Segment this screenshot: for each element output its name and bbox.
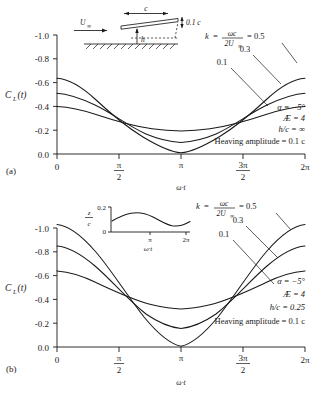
y-tick-label: -1.0 (35, 31, 50, 41)
annotation-alpha: α = −5° (277, 102, 305, 112)
y-tick-label: -0.8 (35, 54, 50, 64)
y-axis-label-a: C L (t) (5, 90, 26, 102)
chord-label: c (144, 4, 148, 13)
k-formula-a: k = ωc 2U ∞ = 0.5 (205, 29, 265, 50)
curves-b (57, 225, 305, 347)
inset-ytick-bottom: 0 (103, 228, 107, 236)
k-label-0.3: 0.3 (240, 44, 251, 54)
x-tick-label-0: 0 (55, 355, 60, 365)
y-axis-label-text: C (5, 283, 12, 293)
k-formula-value: = 0.5 (247, 31, 265, 41)
y-tick-labels-a: -1.0 -0.8 -0.6 -0.4 -0.2 0.0 (35, 31, 50, 160)
y-axis-label-arg: (t) (18, 90, 27, 101)
x-tick-label-pi-half-num: π (117, 353, 122, 363)
inset-curve-zc (112, 213, 190, 226)
annotation-h-over-c: h/c = ∞ (279, 124, 305, 134)
annotation-alpha: α = −5° (277, 276, 305, 286)
curve-k-0.5 (57, 225, 305, 347)
k-formula-lhs: k (205, 31, 209, 41)
k-label-0.3: 0.3 (233, 215, 244, 225)
inset-xtick-2pi: 2π (182, 236, 190, 244)
x-axis-label-b: ω·t (176, 378, 186, 387)
panel-a: -1.0 -0.8 -0.6 -0.4 -0.2 0.0 C L (t) 0 π… (0, 0, 325, 200)
k-formula-numerator: ωc (220, 199, 229, 208)
annotation-aspect-ratio: Æ = 4 (282, 113, 306, 123)
y-tick-label: 0.0 (38, 343, 50, 353)
h-label: h (141, 35, 145, 44)
k-formula-lhs: k (196, 201, 200, 211)
y-axis-label-arg: (t) (18, 283, 27, 294)
k-formula-b: k = ωc 2U ∞ = 0.5 (196, 199, 257, 220)
y-axis-label-sub: L (12, 288, 17, 295)
ground-hatching (86, 44, 175, 49)
y-axis-label-b: C L (t) (5, 283, 26, 295)
annotations-b: α = −5° Æ = 4 h/c = 0.25 Heaving amplitu… (215, 276, 306, 326)
inset-airfoil-diagram-a: U ∞ c 0.1 c h (74, 4, 201, 49)
y-tick-label: -1.0 (35, 224, 50, 234)
k-formula-value: = 0.5 (239, 201, 257, 211)
panel-a-plot: -1.0 -0.8 -0.6 -0.4 -0.2 0.0 C L (t) 0 π… (0, 0, 325, 200)
panel-b-plot: -1.0 -0.8 -0.6 -0.4 -0.2 0.0 C L (t) 0 π… (0, 196, 325, 397)
figure-container: -1.0 -0.8 -0.6 -0.4 -0.2 0.0 C L (t) 0 π… (0, 0, 325, 397)
y-tick-labels-b: -1.0 -0.8 -0.6 -0.4 -0.2 0.0 (35, 224, 50, 353)
y-tick-label: -0.4 (35, 102, 50, 112)
annotation-heaving-amplitude: Heaving amplitude = 0.1 c (215, 136, 306, 146)
x-tick-label-pi-half-num: π (117, 160, 122, 170)
x-tick-labels-b: 0 π 2 π 3π 2 2π (55, 353, 310, 375)
y-tick-label: -0.2 (35, 126, 49, 136)
amplitude-label: 0.1 c (186, 18, 201, 27)
x-axis-label-a: ω·t (176, 183, 186, 192)
inset-xlabel: ω·t (144, 245, 154, 253)
x-tick-label-2pi: 2π (300, 162, 310, 172)
x-tick-label-3pi-half-den: 2 (241, 365, 246, 375)
k-formula-denominator: 2U (216, 209, 226, 218)
x-tick-label-pi: π (179, 353, 184, 363)
annotation-aspect-ratio: Æ = 4 (282, 289, 306, 299)
k-label-0.1: 0.1 (217, 57, 228, 67)
panel-tag-a: (a) (6, 166, 16, 176)
x-tick-label-pi-half-den: 2 (117, 172, 122, 182)
k-formula-eq: = (213, 31, 218, 41)
inset-xtick-pi: π (148, 236, 152, 244)
y-axis-label-text: C (5, 90, 12, 100)
u-infinity-label: U (80, 18, 86, 27)
x-tick-label-0: 0 (55, 162, 60, 172)
curve-k-0.1 (57, 271, 305, 309)
curve-k-0.1 (57, 106, 305, 130)
y-tick-label: -0.8 (35, 247, 50, 257)
inset-ylabel-den: c (87, 220, 91, 228)
x-tick-label-pi: π (179, 160, 184, 170)
k-formula-numerator: ωc (228, 29, 237, 38)
panel-b: -1.0 -0.8 -0.6 -0.4 -0.2 0.0 C L (t) 0 π… (0, 196, 325, 397)
y-tick-label: 0.0 (38, 150, 50, 160)
y-tick-label: -0.6 (35, 271, 50, 281)
k-formula-eq: = (204, 201, 209, 211)
x-tick-label-3pi-half-den: 2 (241, 172, 246, 182)
annotation-heaving-amplitude: Heaving amplitude = 0.1 c (215, 316, 306, 326)
x-tick-label-2pi: 2π (300, 355, 310, 365)
annotation-h-over-c: h/c = 0.25 (270, 302, 305, 312)
y-tick-label: -0.2 (35, 319, 49, 329)
y-tick-label: -0.4 (35, 295, 50, 305)
y-axis-label-sub: L (12, 95, 17, 102)
inset-zc-plot-b: z c 0.2 0 π 2π ω·t (85, 204, 190, 253)
k-formula-denominator: 2U (224, 39, 234, 48)
k-label-0.1: 0.1 (219, 229, 230, 239)
inset-ytick-top: 0.2 (97, 204, 106, 212)
u-infinity-sub: ∞ (87, 23, 91, 29)
panel-tag-b: (b) (6, 364, 17, 374)
u-arrow-head (102, 29, 107, 33)
y-tick-label: -0.6 (35, 78, 50, 88)
x-tick-label-pi-half-den: 2 (117, 365, 122, 375)
inset-ylabel-num: z (87, 209, 91, 217)
x-tick-label-3pi-half-num: 3π (238, 353, 248, 363)
x-tick-labels-a: 0 π 2 π 3π 2 2π (55, 160, 310, 182)
x-tick-label-3pi-half-num: 3π (238, 160, 248, 170)
